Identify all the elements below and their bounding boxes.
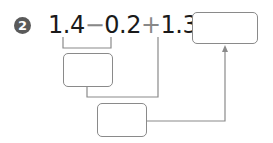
arrow-head-icon xyxy=(222,45,228,52)
step1-to-term3-line xyxy=(87,37,158,97)
bracket-line xyxy=(63,37,111,48)
connector-lines xyxy=(0,0,273,143)
step2-to-answer-line xyxy=(147,50,225,121)
